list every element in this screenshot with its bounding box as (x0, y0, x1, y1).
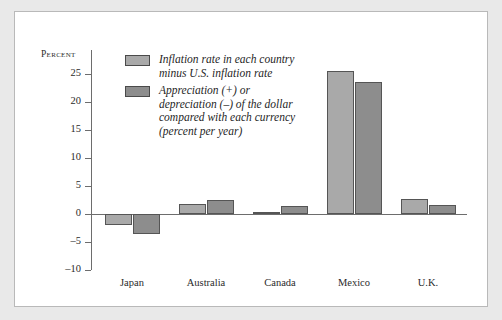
legend-swatch-dollar-appreciation (125, 86, 150, 97)
x-axis-category-label: Mexico (317, 277, 391, 288)
x-axis-category-label: Australia (169, 277, 243, 288)
y-axis-tick-mark (85, 242, 91, 243)
x-axis-category-label: U.K. (391, 277, 465, 288)
y-axis-tick-mark (85, 102, 91, 103)
y-axis-tick-label: 10 (35, 151, 81, 162)
x-axis-category-label: Canada (243, 277, 317, 288)
legend-label-dollar-appreciation: Appreciation (+) or depreciation (–) of … (159, 84, 295, 138)
y-axis-tick-label: 5 (35, 179, 81, 190)
y-axis-tick-mark (85, 214, 91, 215)
bar-japan-series1 (105, 214, 132, 225)
y-axis-tick-label: 0 (35, 207, 81, 218)
x-axis-category-label: Japan (95, 277, 169, 288)
y-axis-title: Percent (41, 49, 76, 59)
bar-mexico-series2 (355, 82, 382, 214)
y-axis-tick-label: 25 (35, 67, 81, 78)
bar-uk-series2 (429, 205, 456, 214)
legend-entry-inflation-rate: Inflation rate in each country minus U.S… (125, 53, 355, 80)
y-axis-tick-mark (85, 74, 91, 75)
y-axis-tick-mark (85, 270, 91, 271)
bar-japan-series2 (133, 214, 160, 234)
legend-label-inflation-rate: Inflation rate in each country minus U.S… (159, 53, 294, 80)
bar-canada-series1 (253, 212, 280, 214)
legend-entry-dollar-appreciation: Appreciation (+) or depreciation (–) of … (125, 84, 355, 138)
y-axis-tick-mark (85, 130, 91, 131)
chart-figure-frame: Percent 2520151050–5–10 JapanAustraliaCa… (14, 11, 488, 307)
y-axis-tick-label: –5 (35, 235, 81, 246)
y-axis-tick-label: 20 (35, 95, 81, 106)
bar-chart-plot-area: Percent 2520151050–5–10 JapanAustraliaCa… (15, 12, 489, 308)
bar-canada-series2 (281, 206, 308, 214)
y-axis-tick-label: –10 (35, 263, 81, 274)
bar-australia-series1 (179, 204, 206, 214)
y-axis-tick-mark (85, 186, 91, 187)
bar-uk-series1 (401, 199, 428, 214)
y-axis-line (91, 50, 92, 270)
y-axis-tick-mark (85, 158, 91, 159)
y-axis-tick-label: 15 (35, 123, 81, 134)
bar-australia-series2 (207, 200, 234, 214)
legend-swatch-inflation-rate (125, 55, 150, 66)
